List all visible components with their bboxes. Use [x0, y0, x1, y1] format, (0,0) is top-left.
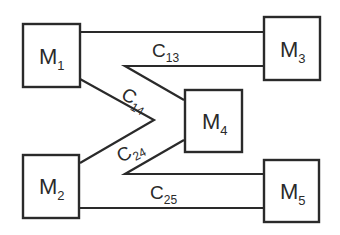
node-m5: M5	[264, 160, 319, 222]
edge-label-c25: C25	[150, 182, 177, 207]
node-m3: M3	[264, 17, 320, 80]
edge-label-c14: C14	[116, 83, 152, 118]
diagram-canvas: M1 M2 M3 M4 M5 C13 C14 C24 C25	[0, 0, 340, 235]
node-m4: M4	[185, 90, 242, 152]
node-m1: M1	[23, 24, 80, 87]
edge-label-c13: C13	[152, 40, 179, 65]
node-m2: M2	[23, 155, 79, 218]
